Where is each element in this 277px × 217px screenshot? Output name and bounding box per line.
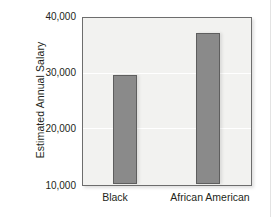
- y-tick-label: 40,000: [18, 12, 76, 22]
- x-tick-label-african-american: African American: [170, 191, 249, 203]
- gridline: [83, 128, 251, 130]
- chart-figure: Estimated Annual Salary 40,000 30,000 20…: [0, 0, 277, 217]
- x-axis-tick-labels: Black African American: [82, 191, 252, 209]
- bar: [113, 75, 137, 184]
- page-edge-rule: [270, 0, 271, 217]
- x-tick-label-black: Black: [102, 191, 128, 203]
- y-tick-label: 20,000: [18, 124, 76, 134]
- plot-inner: [83, 18, 251, 185]
- plot-area: [82, 17, 252, 186]
- y-tick-label: 30,000: [18, 68, 76, 78]
- y-tick-label: 10,000: [18, 181, 76, 191]
- y-axis-tick-labels: 40,000 30,000 20,000 10,000: [18, 0, 76, 217]
- bar: [196, 33, 220, 184]
- gridline: [83, 73, 251, 75]
